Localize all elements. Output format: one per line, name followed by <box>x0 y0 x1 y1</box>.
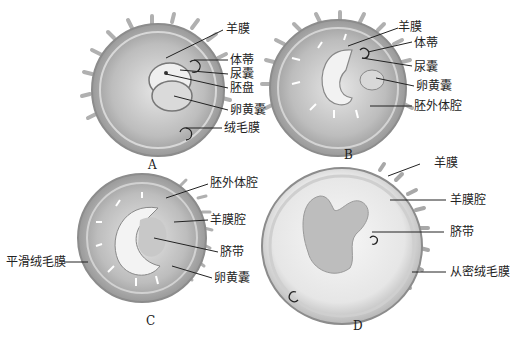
panel-caption-a: A <box>148 158 157 172</box>
panel-caption-c: C <box>146 314 155 328</box>
panel-caption-b: B <box>344 148 353 162</box>
label-a-yolk-sac: 卵黄囊 <box>230 103 266 117</box>
label-b-extraembryonic-coelom: 胚外体腔 <box>414 99 462 113</box>
panel-a-drawing <box>82 14 230 156</box>
panel-caption-d: D <box>353 319 363 333</box>
label-a-amnion: 羊膜 <box>226 22 250 36</box>
label-c-amniotic-cavity: 羊膜腔 <box>210 213 246 227</box>
panel-c-drawing <box>64 174 218 302</box>
label-d-amniotic-cavity: 羊膜腔 <box>450 193 486 207</box>
label-d-umbilical-cord: 脐带 <box>450 225 474 239</box>
label-a-body-stalk: 体蒂 <box>230 53 254 67</box>
label-d-chorion-frondosum: 从密绒毛膜 <box>450 265 510 279</box>
label-c-umbilical-cord: 脐带 <box>220 245 244 259</box>
label-a-allantois: 尿囊 <box>230 67 254 81</box>
label-b-yolk-sac: 卵黄囊 <box>416 79 452 93</box>
label-c-extraembryonic-coelom: 胚外体腔 <box>210 176 258 190</box>
label-c-smooth-chorion: 平滑绒毛膜 <box>6 255 66 269</box>
embryo-membranes-diagram <box>0 0 520 345</box>
label-a-embryonic-disc: 胚盘 <box>230 81 254 95</box>
label-a-chorion: 绒毛膜 <box>224 121 260 135</box>
label-b-body-stalk: 体蒂 <box>414 36 438 50</box>
label-b-amnion: 羊膜 <box>398 20 422 34</box>
label-c-yolk-sac: 卵黄囊 <box>214 271 250 285</box>
label-d-amnion: 羊膜 <box>434 156 458 170</box>
panel-b-drawing <box>262 12 414 156</box>
label-b-allantois: 尿囊 <box>414 60 438 74</box>
panel-d-drawing <box>262 164 446 324</box>
